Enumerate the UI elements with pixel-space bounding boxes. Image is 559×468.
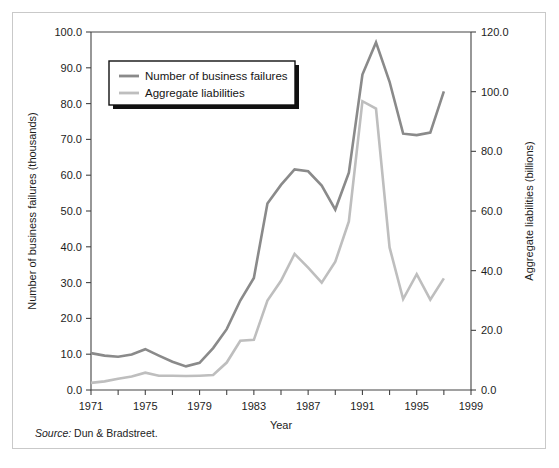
y-tick-label: 70.0 xyxy=(61,133,82,145)
y2-tick-label: 100.0 xyxy=(481,86,509,98)
y-tick-label: 60.0 xyxy=(61,169,82,181)
y2-axis-title: Aggregate liabilities (billions) xyxy=(523,141,535,280)
x-tick-label: 1971 xyxy=(79,400,103,412)
y-tick-label: 90.0 xyxy=(61,62,82,74)
series-line-2 xyxy=(91,101,444,383)
y-tick-label: 0.0 xyxy=(67,384,82,396)
y-tick-label: 50.0 xyxy=(61,205,82,217)
y-tick-label: 10.0 xyxy=(61,348,82,360)
y-tick-label: 100.0 xyxy=(54,26,82,38)
x-tick-label: 1999 xyxy=(459,400,483,412)
x-tick-label: 1995 xyxy=(404,400,428,412)
x-tick-label: 1983 xyxy=(242,400,266,412)
source-text: Dun & Bradstreet. xyxy=(74,427,157,439)
x-axis-title: Year xyxy=(270,419,293,431)
figure-panel: 0.010.020.030.040.050.060.070.080.090.01… xyxy=(12,12,546,449)
y2-tick-label: 120.0 xyxy=(481,26,509,38)
source-note: Source: Dun & Bradstreet. xyxy=(35,427,158,439)
legend-label-2: Aggregate liabilities xyxy=(145,87,245,99)
y-tick-label: 40.0 xyxy=(61,241,82,253)
y2-tick-label: 20.0 xyxy=(481,324,502,336)
y2-tick-label: 60.0 xyxy=(481,205,502,217)
y2-tick-label: 0.0 xyxy=(481,384,496,396)
legend-label-1: Number of business failures xyxy=(145,70,288,82)
y-tick-label: 30.0 xyxy=(61,277,82,289)
y-tick-label: 80.0 xyxy=(61,98,82,110)
y2-tick-label: 80.0 xyxy=(481,145,502,157)
x-tick-label: 1979 xyxy=(187,400,211,412)
y-tick-label: 20.0 xyxy=(61,312,82,324)
source-label: Source: xyxy=(35,427,71,439)
x-tick-label: 1987 xyxy=(296,400,320,412)
x-tick-label: 1975 xyxy=(133,400,157,412)
y-axis-title: Number of business failures (thousands) xyxy=(26,112,38,309)
x-tick-label: 1991 xyxy=(350,400,374,412)
y2-tick-label: 40.0 xyxy=(481,265,502,277)
chart-canvas: 0.010.020.030.040.050.060.070.080.090.01… xyxy=(13,13,545,448)
